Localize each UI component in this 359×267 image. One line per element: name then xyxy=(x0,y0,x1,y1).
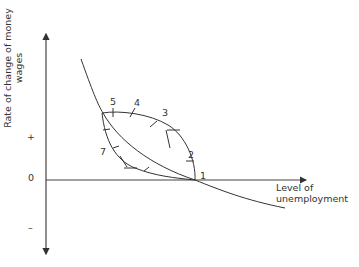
y-axis-label: Rate of change of money wages xyxy=(2,8,25,128)
y-axis-label-line2: wages xyxy=(13,8,24,128)
y-axis-label-line1: Rate of change of money xyxy=(2,8,13,128)
phillips-curve xyxy=(81,59,285,208)
point-7-label: 7 xyxy=(100,146,106,157)
y-axis-plus: + xyxy=(27,132,35,143)
point-1-label: 1 xyxy=(200,170,206,181)
loop-upper-path xyxy=(102,112,195,180)
point-2-label: 2 xyxy=(188,149,194,160)
x-axis-label-line2: unemployment xyxy=(276,194,348,205)
point-5-label: 5 xyxy=(110,96,116,107)
y-axis-zero: 0 xyxy=(28,173,34,184)
point-4-label: 4 xyxy=(134,97,140,108)
x-axis-label: Level of unemployment xyxy=(276,183,348,205)
loop-tick-marks xyxy=(103,108,194,171)
y-axis-minus: – xyxy=(28,223,33,234)
point-3-label: 3 xyxy=(162,107,168,118)
phillips-diagram xyxy=(0,0,359,267)
